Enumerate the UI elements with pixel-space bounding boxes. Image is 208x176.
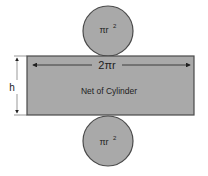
- height-label: h: [9, 82, 15, 93]
- rectangle-caption: Net of Cylinder: [81, 86, 137, 96]
- cylinder-net-diagram: πr 2 2πr Net of Cylinder h πr 2: [0, 0, 208, 176]
- width-label: 2πr: [98, 59, 116, 71]
- bottom-circle-label: πr: [99, 137, 108, 147]
- top-circle-label: πr: [99, 25, 108, 35]
